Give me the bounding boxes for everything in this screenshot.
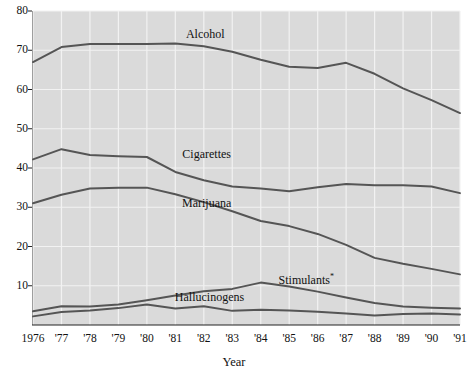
series-line-cigarettes: [33, 149, 460, 193]
x-tick-label: '82: [197, 332, 211, 344]
x-tick-label: '77: [55, 332, 69, 344]
x-tick-label: '87: [339, 332, 353, 344]
y-tick-label: 80: [4, 5, 28, 17]
y-tick-label: 60: [4, 84, 28, 96]
x-tick-label: '88: [368, 332, 382, 344]
x-tick-label: '80: [140, 332, 154, 344]
y-tick-label: 50: [4, 123, 28, 135]
y-tick-label: 10: [4, 280, 28, 292]
series-line-alcohol: [33, 44, 460, 113]
x-tick-label: '91: [453, 332, 467, 344]
y-tick-label: 20: [4, 241, 28, 253]
x-tick-label: '78: [83, 332, 97, 344]
footnote-marker: *: [330, 272, 334, 281]
y-tick-label: 30: [4, 201, 28, 213]
x-tick-label: 1976: [22, 332, 45, 344]
x-tick-label: '84: [254, 332, 268, 344]
series-line-stimulants-: [33, 283, 460, 312]
x-axis-title: Year: [0, 355, 468, 370]
x-tick-label: '90: [425, 332, 439, 344]
series-label-stimulants-: Stimulants*: [279, 271, 334, 286]
y-tick-label: 70: [4, 44, 28, 56]
x-tick-label: '85: [282, 332, 296, 344]
x-tick-label: '83: [225, 332, 239, 344]
gridlines: [33, 11, 460, 325]
chart-root: 1020304050607080 1976'77'78'79'80'81'82'…: [0, 0, 468, 375]
series-label-alcohol: Alcohol: [186, 28, 225, 40]
series-label-cigarettes: Cigarettes: [182, 148, 231, 160]
x-tick-label: '86: [311, 332, 325, 344]
y-axis-labels: 1020304050607080: [0, 0, 28, 375]
series-label-marijuana: Marijuana: [182, 197, 231, 209]
x-tick-label: '81: [169, 332, 183, 344]
series-label-hallucinogens: Hallucinogens: [175, 291, 244, 303]
y-tick-marks: [28, 11, 32, 286]
x-tick-label: '89: [396, 332, 410, 344]
chart-lines-svg: [0, 0, 468, 375]
y-tick-label: 40: [4, 162, 28, 174]
series-line-marijuana: [33, 188, 460, 275]
x-tick-label: '79: [112, 332, 126, 344]
series-lines: [33, 44, 460, 317]
